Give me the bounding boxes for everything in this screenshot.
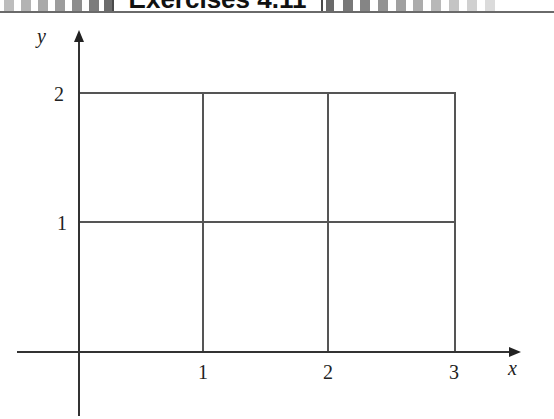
y-axis-arrow-icon [74, 30, 84, 42]
y-tick-1: 1 [57, 212, 67, 234]
x-axis-label: x [507, 357, 517, 379]
grid-figure: y x 2 1 1 2 3 [0, 0, 554, 419]
x-tick-3: 3 [449, 361, 459, 383]
y-axis-label: y [35, 25, 46, 48]
x-tick-2: 2 [323, 361, 333, 383]
x-tick-1: 1 [198, 361, 208, 383]
y-tick-2: 2 [54, 83, 64, 105]
grid [79, 93, 456, 352]
axes [17, 40, 512, 416]
x-axis-arrow-icon [509, 347, 521, 357]
